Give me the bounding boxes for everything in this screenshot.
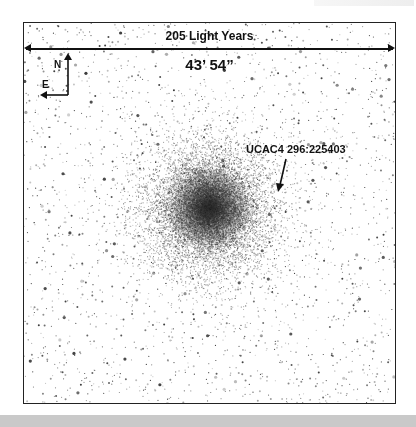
target-pointer-arrow-icon: [272, 157, 302, 197]
bottom-gray-band: [0, 415, 416, 427]
compass-rose: N E: [38, 51, 78, 101]
scale-bar-double-arrow: [26, 48, 393, 50]
scale-label: 205 Light Years: [24, 29, 395, 43]
target-star-label: UCAC4 296:225403: [246, 143, 346, 155]
angular-size-label: 43’ 54”: [24, 56, 395, 73]
star-field-frame: 205 Light Years 43’ 54” N E UCAC4 296:22…: [23, 22, 396, 404]
globular-cluster-image: [24, 23, 395, 403]
compass-arrows-icon: [38, 51, 78, 101]
cropped-header-text: [314, 0, 414, 6]
